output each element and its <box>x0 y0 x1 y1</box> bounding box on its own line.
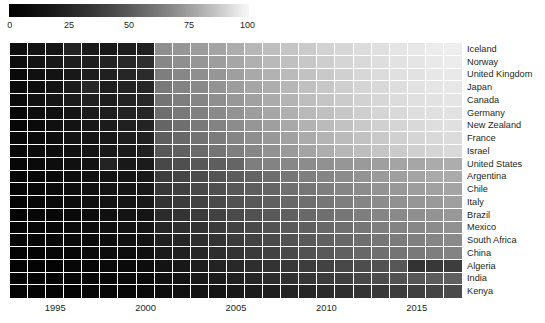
heatmap-cell <box>191 69 209 82</box>
heatmap-cell <box>317 196 335 209</box>
heatmap-cell <box>245 120 263 133</box>
heatmap-cell <box>390 234 408 247</box>
heatmap-cell <box>263 158 281 171</box>
heatmap-cell <box>209 171 227 184</box>
heatmap-cell <box>118 69 136 82</box>
heatmap-cell <box>173 107 191 120</box>
heatmap-cell <box>64 260 82 273</box>
heatmap-cell <box>82 247 100 260</box>
heatmap-cell <box>46 260 64 273</box>
heatmap-cell <box>173 247 191 260</box>
heatmap-cell <box>155 183 173 196</box>
heatmap-cell <box>263 145 281 158</box>
heatmap-cell <box>245 107 263 120</box>
heatmap-cell <box>173 260 191 273</box>
heatmap-cell <box>408 285 426 298</box>
heatmap-cell <box>426 234 444 247</box>
heatmap-cell <box>155 43 173 56</box>
heatmap-cell <box>209 81 227 94</box>
heatmap-cell <box>426 145 444 158</box>
heatmap-cell <box>100 285 118 298</box>
heatmap-cell <box>390 285 408 298</box>
heatmap-cell <box>10 260 28 273</box>
heatmap-cell <box>281 209 299 222</box>
row-label-brazil: Brazil <box>467 209 545 222</box>
heatmap-cell <box>426 209 444 222</box>
heatmap-cell <box>137 171 155 184</box>
row-label-chile: Chile <box>467 183 545 196</box>
heatmap-cell <box>317 145 335 158</box>
heatmap-cell <box>209 120 227 133</box>
heatmap-cell <box>372 43 390 56</box>
heatmap-cell <box>390 56 408 69</box>
heatmap-cell <box>46 69 64 82</box>
heatmap-cell <box>191 247 209 260</box>
heatmap-cell <box>227 183 245 196</box>
heatmap-cell <box>46 145 64 158</box>
row-label-new-zealand: New Zealand <box>467 120 545 133</box>
row-label-canada: Canada <box>467 94 545 107</box>
heatmap-cell <box>46 132 64 145</box>
heatmap-cell <box>426 43 444 56</box>
heatmap-cell <box>173 196 191 209</box>
heatmap-cell <box>10 183 28 196</box>
row-label-india: India <box>467 273 545 286</box>
heatmap-cell <box>408 260 426 273</box>
heatmap-cell <box>155 81 173 94</box>
heatmap-cell <box>118 285 136 298</box>
heatmap-cell <box>137 107 155 120</box>
heatmap-cell <box>281 158 299 171</box>
heatmap-cell <box>317 171 335 184</box>
heatmap-cell <box>46 43 64 56</box>
heatmap-cell <box>10 234 28 247</box>
heatmap-cell <box>263 234 281 247</box>
heatmap-cell <box>281 145 299 158</box>
heatmap-cell <box>46 107 64 120</box>
heatmap-cell <box>28 81 46 94</box>
heatmap-cell <box>191 132 209 145</box>
heatmap-cell <box>173 120 191 133</box>
heatmap-cell <box>28 209 46 222</box>
heatmap-cell <box>82 107 100 120</box>
heatmap-cell <box>191 43 209 56</box>
heatmap-cell <box>372 247 390 260</box>
heatmap-cell <box>28 183 46 196</box>
heatmap-cell <box>82 234 100 247</box>
heatmap-cell <box>118 107 136 120</box>
heatmap-cell <box>317 69 335 82</box>
heatmap-cell <box>191 120 209 133</box>
heatmap-cell <box>118 145 136 158</box>
heatmap-row-labels: IcelandNorwayUnited KingdomJapanCanadaGe… <box>467 43 545 298</box>
heatmap-cell <box>335 260 353 273</box>
heatmap-cell <box>209 107 227 120</box>
heatmap-cell <box>335 183 353 196</box>
heatmap-cell <box>227 273 245 286</box>
heatmap-cell <box>155 69 173 82</box>
heatmap-cell <box>390 43 408 56</box>
heatmap-cell <box>354 260 372 273</box>
heatmap-cell <box>372 171 390 184</box>
heatmap-cell <box>155 260 173 273</box>
heatmap-cell <box>299 285 317 298</box>
heatmap-cell <box>64 107 82 120</box>
heatmap-cell <box>209 94 227 107</box>
heatmap-cell <box>137 94 155 107</box>
row-label-italy: Italy <box>467 196 545 209</box>
heatmap-cell <box>155 132 173 145</box>
heatmap-cell <box>281 132 299 145</box>
heatmap-cell <box>46 56 64 69</box>
heatmap-cell <box>444 81 462 94</box>
heatmap-cell <box>263 285 281 298</box>
heatmap-grid <box>10 43 462 298</box>
colorbar-legend: 0255075100 <box>9 4 249 33</box>
heatmap-cell <box>28 222 46 235</box>
heatmap-cell <box>46 94 64 107</box>
heatmap-cell <box>118 183 136 196</box>
heatmap-cell <box>317 285 335 298</box>
heatmap-cell <box>372 158 390 171</box>
heatmap-cell <box>10 132 28 145</box>
heatmap-cell <box>46 285 64 298</box>
heatmap-cell <box>354 120 372 133</box>
heatmap-cell <box>10 145 28 158</box>
heatmap-cell <box>335 81 353 94</box>
